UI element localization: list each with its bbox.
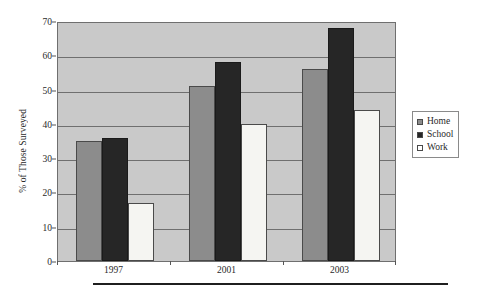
y-axis-tick-mark — [52, 227, 56, 228]
bar-work-2003 — [354, 110, 380, 261]
bottom-divider-rule — [93, 283, 448, 285]
legend-item-label: Work — [427, 143, 448, 153]
bar-school-2001 — [215, 62, 241, 261]
bar-school-2003 — [328, 28, 354, 261]
y-axis-tick-label: 20 — [43, 188, 53, 198]
bar-home-2001 — [189, 86, 215, 261]
y-axis-tick-mark — [52, 262, 56, 263]
x-axis-tick-labels: 199720012003 — [57, 265, 396, 281]
x-axis-tick-label: 1997 — [104, 265, 123, 275]
y-axis-tick-mark — [52, 56, 56, 57]
legend-swatch-icon — [417, 145, 423, 151]
legend-swatch-icon — [417, 119, 423, 125]
x-axis-tick-label: 2001 — [217, 265, 236, 275]
plot-area — [57, 22, 396, 262]
y-axis-tick-mark — [52, 159, 56, 160]
y-axis-tick-label: 10 — [43, 223, 53, 233]
bar-work-1997 — [128, 203, 154, 261]
y-axis-tick-label: 60 — [43, 51, 53, 61]
bar-work-2001 — [241, 124, 267, 261]
bar-home-2003 — [302, 69, 328, 261]
bar-home-1997 — [76, 141, 102, 261]
y-axis-tick-mark — [52, 90, 56, 91]
x-axis-tick-mark — [57, 261, 58, 265]
legend-item-work[interactable]: Work — [417, 141, 453, 154]
y-axis-tick-label: 50 — [43, 86, 53, 96]
legend-item-school[interactable]: School — [417, 128, 453, 141]
y-axis-tick-label: 40 — [43, 120, 53, 130]
y-axis-tick-label: 30 — [43, 154, 53, 164]
y-axis-tick-labels: 010203040506070 — [30, 22, 56, 262]
x-axis-tick-mark — [170, 261, 171, 265]
y-axis-tick-mark — [52, 124, 56, 125]
bar-school-1997 — [102, 138, 128, 261]
y-axis-tick-mark — [52, 193, 56, 194]
legend-item-home[interactable]: Home — [417, 115, 453, 128]
legend-item-label: School — [427, 130, 453, 140]
chart-legend: HomeSchoolWork — [412, 111, 459, 158]
x-axis-tick-mark — [283, 261, 284, 265]
y-axis-tick-mark — [52, 22, 56, 23]
bar-chart-figure: % of Those Surveyed 010203040506070 1997… — [0, 0, 478, 292]
bar-series-container — [58, 23, 395, 261]
legend-swatch-icon — [417, 132, 423, 138]
legend-item-label: Home — [427, 117, 450, 127]
x-axis-tick-mark — [395, 261, 396, 265]
x-axis-tick-label: 2003 — [330, 265, 349, 275]
y-axis-title-label: % of Those Surveyed — [18, 109, 28, 193]
y-axis-tick-label: 70 — [43, 17, 53, 27]
